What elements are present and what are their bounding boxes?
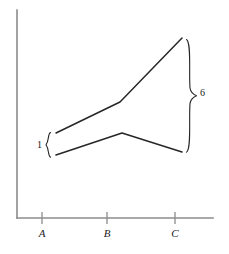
left-brace-label: 1	[37, 140, 42, 150]
tick-label-b: B	[104, 228, 111, 239]
chart-canvas	[0, 0, 229, 254]
left-brace	[46, 133, 51, 158]
lower-curve	[56, 133, 182, 155]
tick-label-c: C	[171, 228, 178, 239]
right-brace-label: 6	[200, 88, 205, 98]
tick-label-a: A	[39, 228, 46, 239]
line-chart-figure: 1 6 A B C	[0, 0, 229, 254]
upper-curve	[56, 38, 182, 133]
right-brace	[187, 40, 197, 153]
